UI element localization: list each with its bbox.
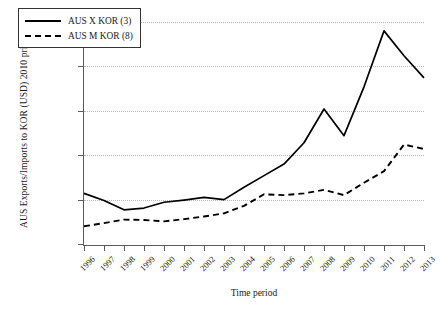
plot-area: 05 000 m10 000 m15 000 m20 000 m25 000 m… (84, 22, 424, 244)
x-axis-title: Time period (84, 288, 424, 298)
x-tick (364, 245, 365, 251)
legend-label: AUS M KOR (8) (68, 31, 133, 41)
series-line (84, 31, 424, 210)
x-tick (184, 245, 185, 251)
legend: AUS X KOR (3)AUS M KOR (8) (18, 8, 141, 48)
x-tick (244, 245, 245, 251)
legend-label: AUS X KOR (3) (68, 16, 131, 26)
solid-line-icon (25, 16, 61, 26)
x-tick (264, 245, 265, 251)
chart-figure: AUS Exports/Imports to KOR (USD) 2010 pr… (0, 0, 440, 309)
series-line (84, 145, 424, 227)
x-tick (304, 245, 305, 251)
x-tick (144, 245, 145, 251)
x-tick (284, 245, 285, 251)
x-tick (84, 245, 85, 251)
dashed-line-icon (25, 31, 61, 41)
x-tick (344, 245, 345, 251)
x-tick (224, 245, 225, 251)
legend-item: AUS M KOR (8) (25, 28, 133, 43)
x-tick (124, 245, 125, 251)
x-tick (104, 245, 105, 251)
x-tick (404, 245, 405, 251)
x-tick (384, 245, 385, 251)
legend-item: AUS X KOR (3) (25, 13, 133, 28)
x-tick (324, 245, 325, 251)
data-series-group (84, 22, 424, 244)
x-tick (204, 245, 205, 251)
x-tick (164, 245, 165, 251)
x-tick (424, 245, 425, 251)
x-axis-line (83, 245, 425, 246)
